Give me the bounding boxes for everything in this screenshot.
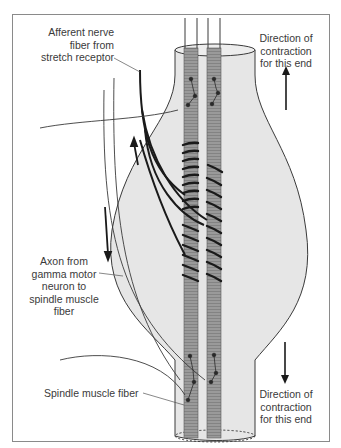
label-gamma-axon: Axon from gamma motor neuron to spindle … <box>26 255 102 318</box>
label-direction-top: Direction of contraction for this end <box>252 32 320 70</box>
label-afferent-nerve: Afferent nerve fiber from stretch recept… <box>30 26 114 64</box>
arrow-up-icon <box>282 66 290 110</box>
leader-afferent <box>114 58 140 72</box>
spindle-muscle-fiber-left <box>184 48 198 438</box>
arrow-down-icon <box>281 342 289 384</box>
label-spindle-muscle-fiber: Spindle muscle fiber <box>44 387 154 400</box>
label-direction-bottom: Direction of contraction for this end <box>252 388 320 426</box>
